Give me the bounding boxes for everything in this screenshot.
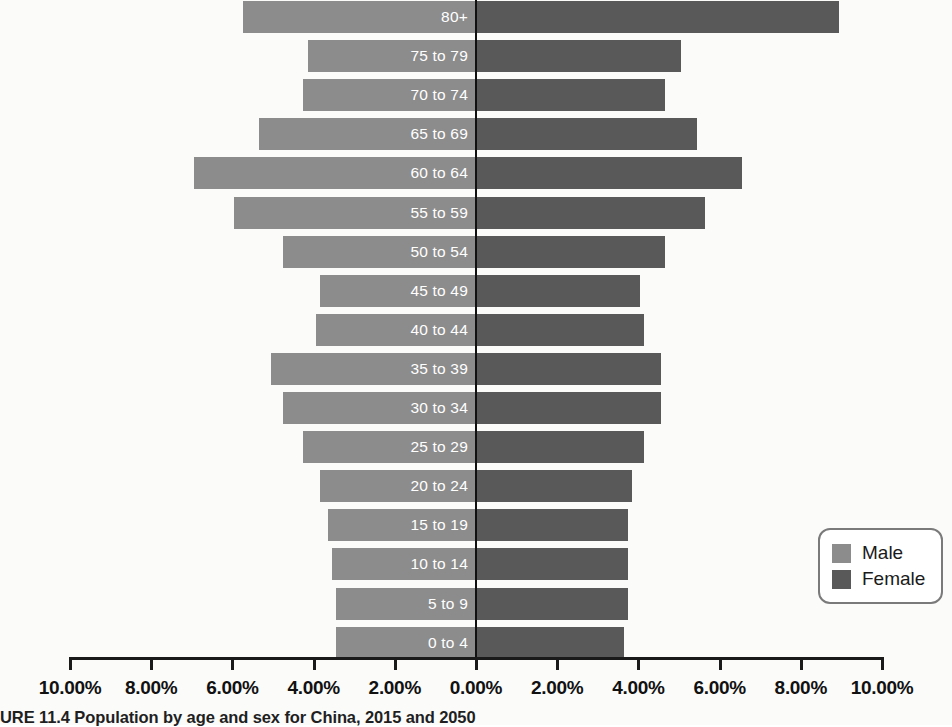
- bar-female: [476, 392, 661, 424]
- bar-female: [476, 236, 665, 268]
- bar-female: [476, 157, 742, 189]
- legend-item-female: Female: [832, 566, 925, 592]
- x-axis-tick: [475, 657, 478, 670]
- x-axis-tick: [800, 657, 803, 670]
- bar-female: [476, 40, 681, 72]
- category-label: 20 to 24: [0, 470, 468, 502]
- legend-item-male: Male: [832, 540, 925, 566]
- bar-female: [476, 353, 661, 385]
- bar-female: [476, 118, 697, 150]
- category-label: 35 to 39: [0, 353, 468, 385]
- x-axis-tick-label: 6.00%: [206, 677, 258, 699]
- x-axis-tick-label: 4.00%: [287, 677, 339, 699]
- x-axis-tick: [150, 657, 153, 670]
- plot-area: 80+75 to 7970 to 7465 to 6960 to 6455 to…: [0, 0, 952, 655]
- bar-female: [476, 314, 644, 346]
- x-axis-tick: [719, 657, 722, 670]
- x-axis-tick: [231, 657, 234, 670]
- bar-female: [476, 1, 839, 33]
- x-axis-tick-label: 2.00%: [369, 677, 421, 699]
- legend-label-female: Female: [862, 568, 925, 590]
- bar-female: [476, 509, 628, 541]
- x-axis-tick: [881, 657, 884, 670]
- bar-female: [476, 627, 624, 659]
- x-axis-tick-label: 0.00%: [450, 677, 502, 699]
- bar-female: [476, 79, 665, 111]
- x-axis-tick: [556, 657, 559, 670]
- x-axis-tick: [69, 657, 72, 670]
- x-axis-tick-label: 8.00%: [125, 677, 177, 699]
- legend-label-male: Male: [862, 542, 903, 564]
- category-label: 10 to 14: [0, 548, 468, 580]
- bar-female: [476, 548, 628, 580]
- bar-female: [476, 588, 628, 620]
- category-label: 5 to 9: [0, 588, 468, 620]
- bar-female: [476, 431, 644, 463]
- x-axis-tick: [637, 657, 640, 670]
- x-axis: [0, 657, 952, 671]
- x-axis-tick: [313, 657, 316, 670]
- category-label: 25 to 29: [0, 431, 468, 463]
- x-axis-tick-label: 10.00%: [851, 677, 914, 699]
- x-axis-tick-label: 10.00%: [39, 677, 102, 699]
- category-label: 70 to 74: [0, 79, 468, 111]
- category-label: 0 to 4: [0, 627, 468, 659]
- figure-caption: URE 11.4 Population by age and sex for C…: [0, 708, 952, 727]
- category-label: 40 to 44: [0, 314, 468, 346]
- chart-legend: Male Female: [818, 528, 943, 604]
- legend-swatch-female-icon: [832, 570, 851, 589]
- x-axis-tick-label: 8.00%: [775, 677, 827, 699]
- category-label: 60 to 64: [0, 157, 468, 189]
- category-label: 55 to 59: [0, 197, 468, 229]
- category-label: 75 to 79: [0, 40, 468, 72]
- legend-swatch-male-icon: [832, 544, 851, 563]
- category-label: 15 to 19: [0, 509, 468, 541]
- center-axis-line: [475, 0, 477, 667]
- x-axis-tick-label: 4.00%: [612, 677, 664, 699]
- category-label: 65 to 69: [0, 118, 468, 150]
- bar-female: [476, 275, 640, 307]
- bar-female: [476, 470, 632, 502]
- category-label: 50 to 54: [0, 236, 468, 268]
- x-axis-tick-label: 6.00%: [693, 677, 745, 699]
- x-axis-tick-label: 2.00%: [531, 677, 583, 699]
- category-label: 30 to 34: [0, 392, 468, 424]
- category-label: 45 to 49: [0, 275, 468, 307]
- x-axis-tick: [394, 657, 397, 670]
- category-label: 80+: [0, 1, 468, 33]
- bar-female: [476, 197, 705, 229]
